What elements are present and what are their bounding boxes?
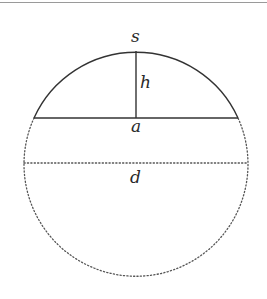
label-h: h — [140, 74, 151, 91]
dotted-circle-remainder — [24, 118, 248, 276]
label-a: a — [131, 118, 141, 135]
label-s: s — [131, 28, 140, 45]
label-d: d — [130, 169, 141, 186]
